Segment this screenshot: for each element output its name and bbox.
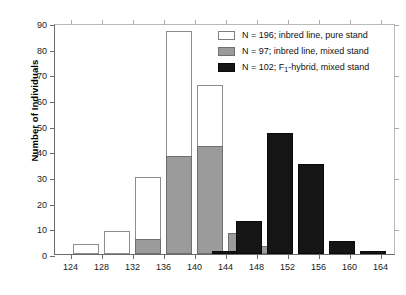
x-tick-mark-top (226, 20, 227, 25)
y-tick-label: 0 (42, 251, 47, 261)
x-tick-mark-top (257, 20, 258, 25)
y-tick-mark (50, 230, 55, 231)
x-tick-label: 152 (280, 262, 295, 272)
y-tick-label: 50 (37, 123, 47, 133)
y-tick-mark-right (394, 179, 399, 180)
x-tick-mark (319, 254, 320, 259)
legend-swatch-black (218, 63, 235, 72)
histogram-bar (197, 146, 223, 254)
x-tick-mark (381, 254, 382, 259)
y-tick-label: 10 (37, 225, 47, 235)
x-tick-mark-top (102, 20, 103, 25)
x-tick-label: 144 (218, 262, 233, 272)
y-tick-label: 90 (37, 20, 47, 30)
legend-swatch-white (218, 31, 235, 40)
histogram-figure: Number of Individuals 010203040506070809… (0, 0, 406, 295)
x-tick-mark-top (71, 20, 72, 25)
y-tick-mark (50, 179, 55, 180)
x-tick-mark-top (133, 20, 134, 25)
x-tick-mark (102, 254, 103, 259)
y-tick-mark (50, 25, 55, 26)
x-tick-label: 140 (187, 262, 202, 272)
x-tick-label: 132 (125, 262, 140, 272)
legend-item: N = 196; inbred line, pure stand (218, 28, 369, 42)
x-tick-mark (257, 254, 258, 259)
histogram-bar (267, 133, 293, 254)
x-tick-label: 136 (156, 262, 171, 272)
y-tick-label: 60 (37, 97, 47, 107)
x-tick-mark (164, 254, 165, 259)
x-tick-label: 160 (342, 262, 357, 272)
y-tick-mark-right (394, 230, 399, 231)
histogram-bar (166, 156, 192, 254)
x-tick-mark (226, 254, 227, 259)
x-tick-mark (288, 254, 289, 259)
legend: N = 196; inbred line, pure standN = 97; … (218, 28, 369, 76)
x-tick-mark (195, 254, 196, 259)
x-tick-mark-top (381, 20, 382, 25)
y-tick-mark (50, 153, 55, 154)
x-tick-mark (133, 254, 134, 259)
y-tick-label: 70 (37, 71, 47, 81)
x-tick-label: 156 (311, 262, 326, 272)
legend-label: N = 196; inbred line, pure stand (242, 30, 368, 40)
histogram-bar (298, 164, 324, 254)
legend-label: N = 102; F1-hybrid, mixed stand (242, 62, 369, 73)
y-tick-mark (50, 102, 55, 103)
x-tick-label: 148 (249, 262, 264, 272)
y-tick-mark (50, 76, 55, 77)
histogram-bar (360, 251, 386, 254)
legend-swatch-gray (218, 47, 235, 56)
x-tick-mark-top (288, 20, 289, 25)
y-tick-mark (50, 128, 55, 129)
x-tick-mark-top (350, 20, 351, 25)
y-tick-mark (50, 256, 55, 257)
y-tick-mark-right (394, 128, 399, 129)
x-tick-label: 164 (373, 262, 388, 272)
y-tick-mark (50, 205, 55, 206)
x-tick-mark-top (195, 20, 196, 25)
x-tick-mark-top (164, 20, 165, 25)
histogram-bar (104, 231, 130, 254)
y-tick-label: 20 (37, 200, 47, 210)
y-tick-label: 30 (37, 174, 47, 184)
x-tick-label: 128 (94, 262, 109, 272)
x-tick-mark (71, 254, 72, 259)
legend-item: N = 97; inbred line, mixed stand (218, 44, 369, 58)
x-tick-mark-top (319, 20, 320, 25)
histogram-bar (135, 239, 161, 254)
legend-label: N = 97; inbred line, mixed stand (242, 46, 369, 56)
histogram-bar (236, 221, 262, 254)
x-tick-mark (350, 254, 351, 259)
x-tick-label: 124 (63, 262, 78, 272)
y-tick-mark-right (394, 76, 399, 77)
legend-item: N = 102; F1-hybrid, mixed stand (218, 60, 369, 74)
y-tick-mark-right (394, 25, 399, 26)
histogram-bar (73, 244, 99, 254)
y-tick-label: 80 (37, 46, 47, 56)
y-tick-mark (50, 51, 55, 52)
histogram-bar (329, 241, 355, 254)
y-tick-label: 40 (37, 148, 47, 158)
